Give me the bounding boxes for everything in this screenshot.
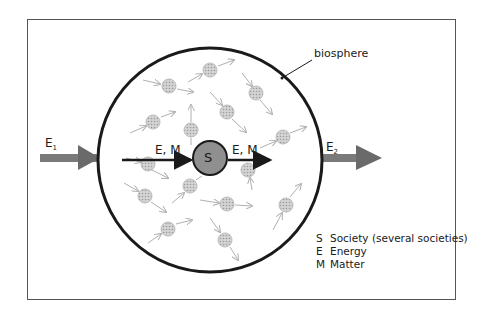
- biosphere-label: biosphere: [314, 47, 368, 60]
- outflow-label: E, M: [232, 143, 258, 157]
- biosphere-pointer: [282, 60, 312, 78]
- external-input-label: E1: [45, 136, 57, 152]
- legend-item: MMatter: [316, 258, 468, 271]
- legend-item: EEnergy: [316, 245, 468, 258]
- inflow-label: E, M: [155, 143, 181, 157]
- legend: SSociety (several societies) EEnergy MMa…: [316, 232, 468, 271]
- external-output-label: E2: [326, 140, 338, 156]
- legend-item: SSociety (several societies): [316, 232, 468, 245]
- society-label: S: [204, 150, 212, 165]
- biosphere-diagram: biosphere S E, M E, M E1 E2 SSociety (se…: [0, 0, 484, 318]
